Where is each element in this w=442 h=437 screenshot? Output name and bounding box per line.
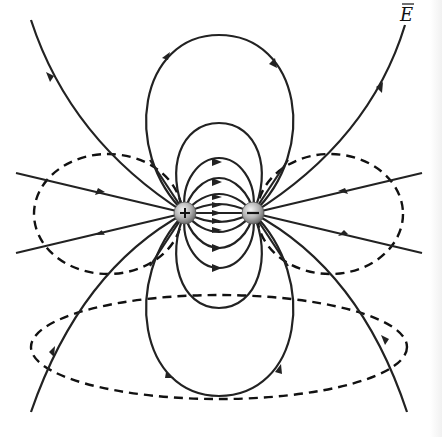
dipole-field-diagram: E (0, 0, 442, 437)
equipotential-left (34, 154, 182, 274)
field-lines (16, 20, 422, 412)
negative-charge (242, 202, 264, 224)
equipotential-bottom (31, 295, 407, 399)
field-arrows (46, 52, 389, 378)
field-diagram-svg (0, 0, 442, 437)
field-label: E (400, 4, 413, 25)
edge-shading (430, 0, 442, 437)
positive-charge (174, 202, 196, 224)
